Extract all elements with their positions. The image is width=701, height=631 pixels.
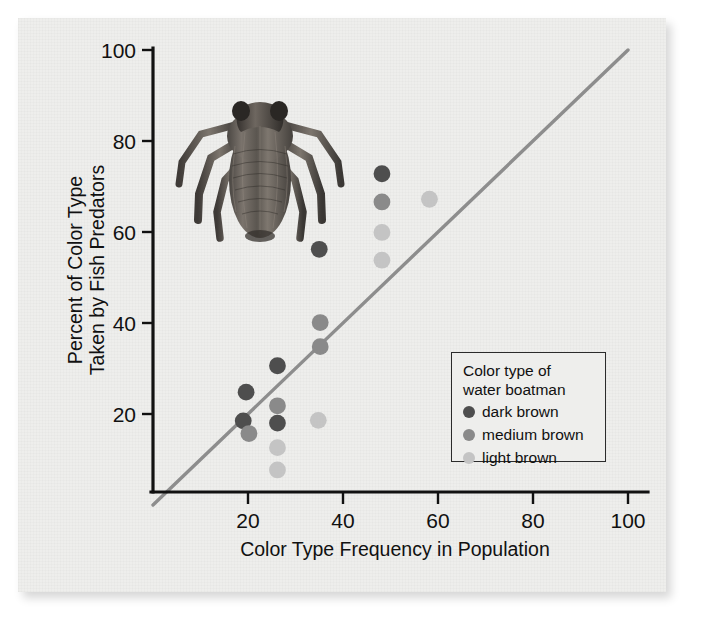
- data-point: [269, 462, 286, 479]
- y-axis-ticks: [142, 50, 153, 414]
- legend-swatch-dot-icon: [463, 406, 475, 418]
- legend-title: Color type of water boatman: [463, 361, 605, 399]
- x-tick-label: 60: [426, 509, 449, 532]
- data-point: [374, 224, 391, 241]
- data-point: [374, 165, 391, 182]
- data-point: [421, 191, 438, 208]
- x-axis-ticks: [248, 492, 628, 504]
- y-axis-title-line2: Taken by Fish Predators: [86, 165, 108, 376]
- data-point: [312, 314, 329, 331]
- data-point: [269, 439, 286, 456]
- x-tick-label: 80: [521, 509, 544, 532]
- legend-item-label: dark brown: [482, 403, 559, 421]
- legend-title-line1: Color type of: [463, 361, 605, 380]
- data-point: [269, 415, 286, 432]
- data-points-layer: [235, 165, 438, 478]
- y-tick-label: 80: [113, 130, 136, 153]
- plot-canvas: 100 80 60 40 20 20 40 60 80 100 Color Ty…: [0, 0, 701, 631]
- y-tick-label: 100: [101, 39, 136, 62]
- legend-swatch-dot-icon: [463, 452, 475, 464]
- y-tick-label: 60: [113, 221, 136, 244]
- y-tick-label: 20: [113, 403, 136, 426]
- legend-item-medium-brown: medium brown: [463, 424, 605, 445]
- data-point: [374, 194, 391, 211]
- x-axis-title: Color Type Frequency in Population: [240, 538, 550, 560]
- x-axis-tick-labels: 20 40 60 80 100: [236, 509, 645, 532]
- data-point: [310, 412, 327, 429]
- data-point: [241, 425, 258, 442]
- legend-item-light-brown: light brown: [463, 447, 605, 468]
- data-point: [269, 397, 286, 414]
- legend: Color type of water boatman dark brown m…: [451, 352, 606, 462]
- legend-item-label: medium brown: [482, 426, 584, 444]
- x-tick-label: 20: [236, 509, 259, 532]
- data-point: [374, 252, 391, 269]
- x-tick-label: 100: [610, 509, 645, 532]
- scatter-plot-figure: 100 80 60 40 20 20 40 60 80 100 Color Ty…: [0, 0, 701, 631]
- data-point: [269, 357, 286, 374]
- legend-title-line2: water boatman: [463, 380, 605, 399]
- x-tick-label: 40: [331, 509, 354, 532]
- legend-swatch-dot-icon: [463, 429, 475, 441]
- y-tick-label: 40: [113, 312, 136, 335]
- data-point: [238, 384, 255, 401]
- legend-item-dark-brown: dark brown: [463, 401, 605, 422]
- y-axis-title-line1: Percent of Color Type: [64, 176, 86, 364]
- data-point: [312, 338, 329, 355]
- legend-item-label: light brown: [482, 449, 557, 467]
- data-point: [311, 241, 328, 258]
